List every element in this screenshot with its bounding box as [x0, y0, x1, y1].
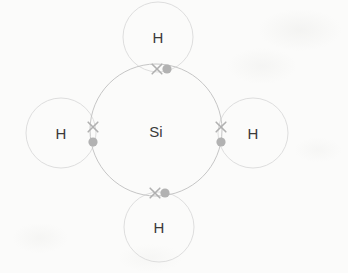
hydrogen-label-right: H: [248, 125, 259, 142]
diagram-canvas: Si H H H H: [0, 0, 348, 273]
sih4-dot-and-cross-diagram: Si H H H H: [0, 0, 348, 273]
electron-dot-top: [162, 64, 171, 73]
electron-dot-right: [216, 137, 225, 146]
electron-dot-bottom: [160, 188, 169, 197]
hydrogen-label-left: H: [56, 125, 67, 142]
hydrogen-label-top: H: [153, 29, 164, 46]
silicon-label: Si: [149, 123, 162, 140]
electron-dot-left: [88, 137, 97, 146]
hydrogen-label-bottom: H: [154, 219, 165, 236]
electron-cross-right: [216, 122, 226, 132]
